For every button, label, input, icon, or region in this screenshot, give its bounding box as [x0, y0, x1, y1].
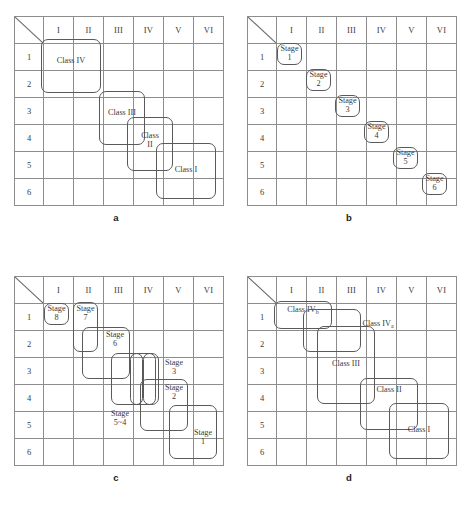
cell [397, 71, 427, 98]
cell [397, 439, 427, 466]
panel-b-grid-wrap: I II III IV V VI 1 2 3 4 5 6 Stage 1 [247, 16, 457, 206]
col-header-3: III [337, 17, 367, 44]
cell [134, 44, 164, 71]
table-row: 5 [15, 412, 224, 439]
cell [44, 439, 74, 466]
col-header-2: II [74, 277, 104, 304]
cell [367, 71, 397, 98]
cell [277, 71, 307, 98]
cell [194, 439, 224, 466]
col-header-6: VI [194, 277, 224, 304]
cell [277, 44, 307, 71]
row-header-3: 3 [15, 98, 44, 125]
cell [104, 412, 134, 439]
cell [427, 385, 457, 412]
panel-c: I II III IV V VI 1 2 3 4 5 6 Stage [14, 276, 224, 466]
cell [367, 412, 397, 439]
cell [337, 385, 367, 412]
cell [104, 179, 134, 206]
panel-b: I II III IV V VI 1 2 3 4 5 6 Stage 1 [247, 16, 457, 206]
cell [307, 331, 337, 358]
cell [337, 331, 367, 358]
panel-d: I II III IV V VI 1 2 3 4 5 6 Class IVb [247, 276, 457, 466]
cell [74, 385, 104, 412]
cell [397, 358, 427, 385]
row-header-6: 6 [15, 179, 44, 206]
col-header-1: I [44, 17, 74, 44]
col-header-1: I [277, 277, 307, 304]
col-header-6: VI [427, 17, 457, 44]
cell [337, 71, 367, 98]
cell [337, 304, 367, 331]
cell [194, 358, 224, 385]
panel-d-caption: d [247, 472, 451, 483]
table-row: 1 [248, 304, 457, 331]
panel-b-caption: b [247, 212, 451, 223]
table-row: 2 [248, 71, 457, 98]
panel-a-grid-wrap: I II III IV V VI 1 2 3 4 5 6 Class IV [14, 16, 224, 206]
cell [397, 125, 427, 152]
figure-sheet: I II III IV V VI 1 2 3 4 5 6 Class IV [0, 0, 466, 517]
panel-d-grid: I II III IV V VI 1 2 3 4 5 6 [247, 276, 457, 466]
cell [277, 385, 307, 412]
cell [134, 358, 164, 385]
cell [44, 44, 74, 71]
cell [427, 125, 457, 152]
cell [74, 439, 104, 466]
row-header-5: 5 [248, 152, 277, 179]
cell [164, 358, 194, 385]
cell [194, 331, 224, 358]
cell [337, 98, 367, 125]
cell [74, 179, 104, 206]
panel-c-caption: c [14, 472, 218, 483]
cell [134, 331, 164, 358]
cell [277, 179, 307, 206]
cell [427, 71, 457, 98]
cell [44, 412, 74, 439]
cell [427, 44, 457, 71]
cell [367, 304, 397, 331]
cell [397, 331, 427, 358]
cell [367, 98, 397, 125]
cell [427, 152, 457, 179]
col-header-2: II [307, 277, 337, 304]
cell [104, 331, 134, 358]
header-row: I II III IV V VI [248, 277, 457, 304]
table-row: 6 [15, 179, 224, 206]
cell [74, 358, 104, 385]
table-row: 5 [248, 412, 457, 439]
header-row: I II III IV V VI [15, 17, 224, 44]
table-row: 1 [15, 304, 224, 331]
cell [194, 152, 224, 179]
row-header-6: 6 [248, 439, 277, 466]
row-header-4: 4 [15, 125, 44, 152]
col-header-4: IV [367, 277, 397, 304]
col-header-4: IV [134, 277, 164, 304]
table-row: 3 [15, 358, 224, 385]
cell [44, 385, 74, 412]
table-row: 4 [248, 125, 457, 152]
cell [194, 44, 224, 71]
cell [337, 439, 367, 466]
cell [397, 412, 427, 439]
cell [194, 385, 224, 412]
cell [277, 358, 307, 385]
table-row: 5 [15, 152, 224, 179]
cell [104, 358, 134, 385]
cell [277, 152, 307, 179]
cell [397, 304, 427, 331]
cell [44, 152, 74, 179]
corner-diagonal-cell [15, 277, 44, 304]
row-header-3: 3 [15, 358, 44, 385]
cell [307, 179, 337, 206]
cell [367, 179, 397, 206]
cell [367, 125, 397, 152]
col-header-5: V [164, 277, 194, 304]
cell [194, 71, 224, 98]
table-row: 2 [15, 71, 224, 98]
cell [427, 412, 457, 439]
cell [277, 125, 307, 152]
table-row: 6 [15, 439, 224, 466]
cell [277, 304, 307, 331]
cell [194, 412, 224, 439]
